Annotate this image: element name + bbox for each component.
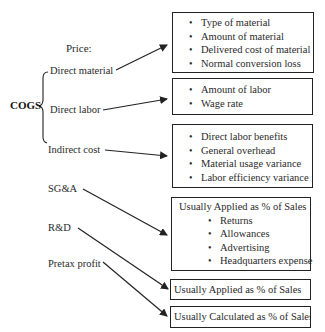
- direct-labor-box: Amount of labor Wage rate: [172, 78, 313, 115]
- bullet-item: Type of material: [181, 16, 313, 30]
- bullet-item: Material usage variance: [181, 157, 312, 171]
- bullet-item: Delivered cost of material: [181, 43, 313, 57]
- indirect-cost-box: Direct labor benefits General overhead M…: [172, 124, 313, 188]
- pretax-profit-label: Pretax profit: [48, 258, 101, 270]
- indirect-cost-label: Indirect cost: [48, 144, 100, 156]
- bullet-item: Amount of material: [181, 30, 313, 44]
- pretax-box: Usually Calculated as % of Sales: [170, 306, 311, 328]
- arrow-indirect-cost: [105, 150, 167, 156]
- direct-material-box: Type of material Amount of material Deli…: [172, 12, 314, 73]
- sga-box: Usually Applied as % of Sales Returns Al…: [171, 197, 311, 271]
- bullet-item: Wage rate: [181, 97, 312, 111]
- direct-labor-label: Direct labor: [50, 104, 100, 116]
- bullet-item: Advertising: [200, 241, 310, 255]
- bullet-item: Normal conversion loss: [181, 57, 313, 71]
- arrow-direct-labor: [103, 99, 167, 110]
- rd-box: Usually Applied as % of Sales: [170, 279, 311, 300]
- bullet-item: Labor efficiency variance: [181, 171, 312, 185]
- sga-box-heading: Usually Applied as % of Sales: [179, 200, 310, 214]
- bullet-item: Amount of labor: [181, 83, 312, 97]
- rd-box-heading: Usually Applied as % of Sales: [174, 283, 310, 297]
- arrow-pretax: [103, 262, 167, 316]
- arrow-direct-material: [116, 45, 167, 70]
- bullet-item: Allowances: [200, 227, 310, 241]
- bullet-item: Returns: [200, 214, 310, 228]
- bullet-item: General overhead: [181, 144, 312, 158]
- arrow-sga: [83, 189, 167, 235]
- cogs-label: COGS: [10, 99, 41, 111]
- bullet-item: Headquarters expense: [200, 254, 310, 268]
- rd-label: R&D: [48, 222, 71, 234]
- price-title: Price:: [66, 42, 92, 54]
- direct-material-label: Direct material: [50, 65, 113, 77]
- sga-label: SG&A: [48, 183, 77, 195]
- pretax-box-heading: Usually Calculated as % of Sales: [174, 310, 310, 324]
- bullet-item: Direct labor benefits: [181, 130, 312, 144]
